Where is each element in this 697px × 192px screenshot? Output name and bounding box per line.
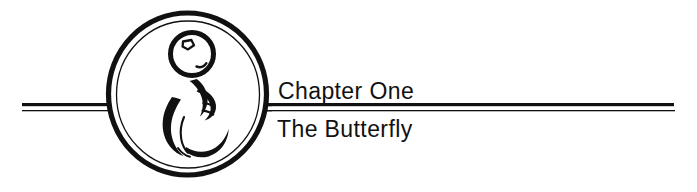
chapter-label: Chapter One [278,78,414,104]
oval-emblem [108,12,268,176]
rule-thin-right [266,110,675,111]
chapter-header-artwork: Chapter One The Butterfly [0,0,697,192]
chapter-title: The Butterfly [277,116,413,142]
chapter-header: Chapter One The Butterfly [0,0,697,192]
